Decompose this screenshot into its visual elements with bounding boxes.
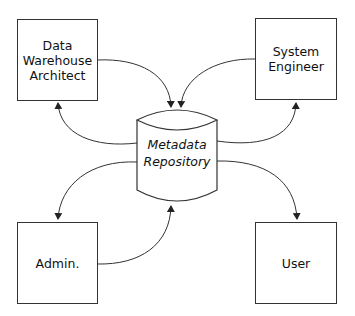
arrow-dwa-to-repo (97, 60, 171, 107)
node-label: Data Warehouse Architect (23, 38, 92, 83)
arrow-repo-to-user (217, 161, 297, 219)
arrow-repo-to-admin (58, 162, 137, 219)
node-label: Admin. (36, 256, 80, 271)
node-data-warehouse-architect: Data Warehouse Architect (17, 19, 98, 101)
arrow-admin-to-repo (97, 206, 171, 264)
node-admin: Admin. (17, 222, 98, 304)
arrow-repo-to-dwa (58, 103, 137, 144)
node-system-engineer: System Engineer (255, 18, 337, 100)
node-user: User (255, 222, 337, 304)
node-label: User (282, 256, 311, 271)
arrow-repo-to-se (217, 103, 296, 143)
node-label: System Engineer (268, 44, 324, 74)
arrow-se-to-repo (181, 59, 255, 107)
metadata-repository-label: Metadata Repository (137, 136, 217, 170)
